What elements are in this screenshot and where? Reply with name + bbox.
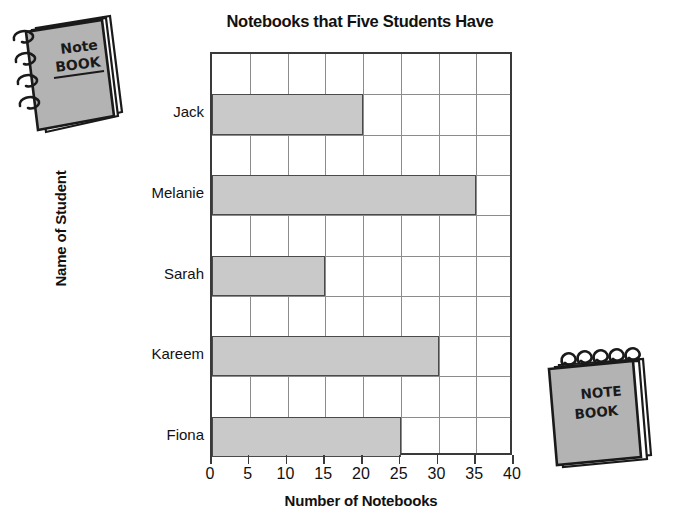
horizontal-gridline — [212, 376, 510, 377]
spiral-notepad-illustration: NOTE BOOK — [533, 343, 659, 471]
x-tick-30 — [437, 455, 439, 464]
vertical-gridline — [439, 54, 440, 453]
x-tick-label-40: 40 — [492, 465, 532, 483]
x-axis-tick-labels: 0510152025303540 — [210, 465, 512, 489]
horizontal-gridline — [212, 296, 510, 297]
x-tick-5 — [248, 455, 250, 464]
horizontal-gridline — [212, 215, 510, 216]
horizontal-gridline — [212, 135, 510, 136]
vertical-gridline — [363, 54, 364, 453]
x-tick-0 — [210, 455, 212, 464]
x-tick-label-20: 20 — [341, 465, 381, 483]
bar-fiona — [212, 417, 401, 457]
x-tick-label-5: 5 — [228, 465, 268, 483]
bar-kareem — [212, 336, 439, 376]
x-tick-25 — [399, 455, 401, 464]
x-tick-label-25: 25 — [379, 465, 419, 483]
bar-jack — [212, 94, 363, 134]
vertical-gridline — [401, 54, 402, 453]
x-tick-label-0: 0 — [190, 465, 230, 483]
chart-title: Notebooks that Five Students Have — [150, 12, 570, 31]
y-tick-label-fiona: Fiona — [84, 427, 204, 442]
y-axis-title: Name of Student — [52, 129, 69, 329]
bar-sarah — [212, 256, 325, 296]
x-tick-label-30: 30 — [417, 465, 457, 483]
y-tick-label-kareem: Kareem — [84, 346, 204, 361]
x-axis-title: Number of Notebooks — [210, 492, 512, 509]
x-tick-20 — [361, 455, 363, 464]
plot-area — [210, 52, 512, 455]
x-tick-label-10: 10 — [266, 465, 306, 483]
y-tick-label-melanie: Melanie — [84, 185, 204, 200]
y-tick-label-sarah: Sarah — [84, 266, 204, 281]
vertical-gridline — [476, 54, 477, 453]
spiral-notebook-illustration: Note BOOK — [6, 4, 126, 136]
x-tick-label-35: 35 — [454, 465, 494, 483]
bar-melanie — [212, 175, 476, 215]
bar-chart-figure: Notebooks that Five Students Have JackMe… — [0, 0, 685, 527]
x-tick-15 — [323, 455, 325, 464]
x-tick-10 — [286, 455, 288, 464]
x-tick-40 — [512, 455, 514, 464]
x-tick-35 — [474, 455, 476, 464]
x-tick-label-15: 15 — [303, 465, 343, 483]
